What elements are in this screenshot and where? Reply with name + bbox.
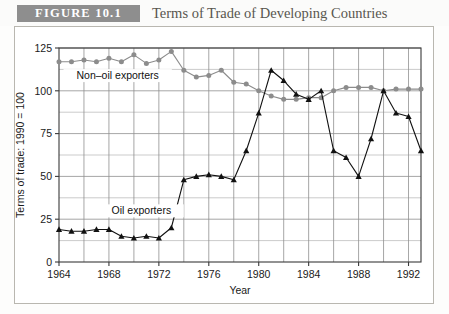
y-tick-label: 75	[40, 127, 52, 139]
data-point-marker	[143, 233, 149, 239]
x-tick-label: 1972	[147, 268, 171, 280]
data-point-marker	[106, 56, 111, 61]
data-point-marker	[231, 80, 236, 85]
data-point-marker	[118, 233, 124, 239]
data-point-marker	[256, 110, 262, 116]
x-axis-title: Year	[229, 284, 251, 296]
data-point-marker	[131, 52, 136, 57]
y-tick-label: 100	[34, 85, 52, 97]
series-annotation-label: Oil exporters	[112, 204, 172, 216]
data-point-marker	[368, 136, 374, 142]
data-point-marker	[219, 68, 224, 73]
data-point-marker	[243, 148, 249, 154]
data-point-marker	[206, 172, 212, 178]
data-point-marker	[119, 59, 124, 64]
data-point-marker	[156, 57, 161, 62]
data-point-marker	[181, 68, 186, 73]
data-point-marker	[256, 88, 261, 93]
data-point-marker	[394, 87, 399, 92]
data-point-marker	[406, 87, 411, 92]
data-point-marker	[168, 225, 174, 231]
data-point-marker	[169, 49, 174, 54]
y-tick-label: 25	[40, 213, 52, 225]
y-tick-label: 0	[46, 256, 52, 268]
x-tick-label: 1988	[347, 268, 371, 280]
data-point-marker	[331, 148, 337, 154]
x-tick-label: 1984	[297, 268, 321, 280]
data-point-marker	[268, 67, 274, 73]
data-point-marker	[281, 97, 286, 102]
x-tick-label: 1992	[397, 268, 421, 280]
data-point-marker	[344, 85, 349, 90]
y-tick-label: 125	[34, 42, 52, 54]
data-point-marker	[144, 61, 149, 66]
chart-plot-area: 0255075100125 19641968197219761980198419…	[0, 0, 449, 314]
y-axis-title: Terms of trade: 1990 = 100	[14, 92, 26, 218]
data-point-marker	[331, 88, 336, 93]
data-point-marker	[419, 87, 424, 92]
data-point-marker	[269, 93, 274, 98]
x-axis-tick-labels: 19641968197219761980198419881992	[47, 268, 420, 280]
data-point-marker	[194, 75, 199, 80]
data-point-marker	[356, 85, 361, 90]
x-tick-label: 1976	[197, 268, 221, 280]
data-point-marker	[206, 73, 211, 78]
chart-svg: 0255075100125 19641968197219761980198419…	[0, 0, 449, 314]
figure-container: FIGURE 10.1 Terms of Trade of Developing…	[0, 0, 449, 314]
data-point-marker	[369, 85, 374, 90]
data-point-marker	[393, 110, 399, 116]
data-point-marker	[94, 59, 99, 64]
data-point-marker	[294, 97, 299, 102]
data-point-marker	[56, 226, 62, 232]
series-annotations: Non–oil exportersOil exporters	[64, 69, 184, 217]
x-tick-label: 1964	[47, 268, 71, 280]
data-point-marker	[69, 59, 74, 64]
x-tick-label: 1980	[247, 268, 271, 280]
data-point-marker	[244, 81, 249, 86]
data-point-marker	[81, 57, 86, 62]
x-tick-label: 1968	[97, 268, 121, 280]
y-axis-tick-labels: 0255075100125	[34, 42, 52, 268]
data-point-marker	[418, 148, 424, 154]
data-point-marker	[57, 59, 62, 64]
y-tick-label: 50	[40, 170, 52, 182]
series-annotation-label: Non–oil exporters	[77, 69, 159, 81]
